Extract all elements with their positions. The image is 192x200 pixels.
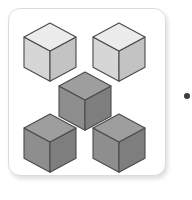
- cube-field: [9, 9, 165, 175]
- cube-bottom-right: [93, 114, 145, 172]
- cube-bottom-left: [24, 114, 76, 172]
- bullet-dot: [184, 93, 190, 99]
- illustration-stage: [0, 0, 192, 200]
- cube-illustration-card: [8, 8, 166, 176]
